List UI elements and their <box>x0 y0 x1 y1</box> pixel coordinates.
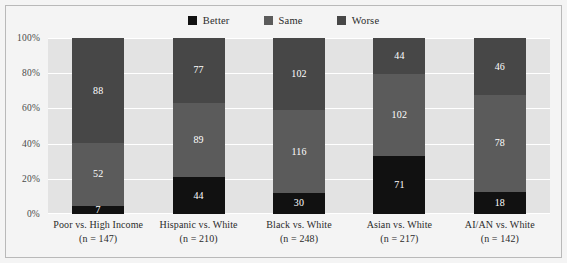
bar-segment-worse[interactable]: 46 <box>474 38 526 95</box>
x-axis-category-label: AI/AN vs. White(n = 142) <box>450 218 550 245</box>
bar-segment-better[interactable]: 7 <box>72 206 124 214</box>
chart-figure: BetterSameWorse 0%20%40%60%80%100% 88527… <box>0 0 567 263</box>
stacked-bar[interactable]: 10211630 <box>273 38 325 214</box>
bar-value-label: 77 <box>193 65 203 75</box>
bar-segment-same[interactable]: 78 <box>474 95 526 192</box>
x-axis-category-count: (n = 147) <box>48 232 148 246</box>
bar-column: 4410271 <box>349 38 449 214</box>
legend-label: Better <box>203 15 230 26</box>
legend-swatch-icon <box>264 16 273 25</box>
bar-value-label: 102 <box>392 110 408 120</box>
y-axis-tick-label: 0% <box>27 209 40 219</box>
x-axis-category-label: Hispanic vs. White(n = 210) <box>148 218 248 245</box>
legend-item-same[interactable]: Same <box>264 15 303 26</box>
y-axis-tick-label: 60% <box>22 103 40 113</box>
bar-value-label: 7 <box>96 206 101 214</box>
stacked-bar[interactable]: 467818 <box>474 38 526 214</box>
bar-segment-better[interactable]: 44 <box>173 177 225 214</box>
legend-item-better[interactable]: Better <box>188 15 230 26</box>
bar-segment-same[interactable]: 52 <box>72 143 124 205</box>
x-axis-category-name: Poor vs. High Income <box>53 219 143 230</box>
bar-segment-same[interactable]: 102 <box>373 74 425 157</box>
x-axis-category-count: (n = 248) <box>249 232 349 246</box>
x-axis-category-count: (n = 142) <box>450 232 550 246</box>
legend-swatch-icon <box>337 16 346 25</box>
x-axis-category-count: (n = 217) <box>349 232 449 246</box>
bar-value-label: 52 <box>93 169 103 179</box>
x-axis-category-name: Asian vs. White <box>367 219 432 230</box>
bar-segment-better[interactable]: 18 <box>474 192 526 214</box>
stacked-bar[interactable]: 778944 <box>173 38 225 214</box>
bar-value-label: 88 <box>93 86 103 96</box>
x-axis: Poor vs. High Income(n = 147)Hispanic vs… <box>48 218 550 245</box>
bar-column: 778944 <box>148 38 248 214</box>
x-axis-category-label: Poor vs. High Income(n = 147) <box>48 218 148 245</box>
x-axis-category-count: (n = 210) <box>148 232 248 246</box>
x-axis-category-label: Black vs. White(n = 248) <box>249 218 349 245</box>
bar-value-label: 102 <box>291 69 307 79</box>
bar-value-label: 89 <box>193 135 203 145</box>
bar-column: 467818 <box>450 38 550 214</box>
plot-area: 88527778944102116304410271467818 <box>48 38 550 214</box>
legend-label: Worse <box>352 15 380 26</box>
legend-label: Same <box>279 15 303 26</box>
bar-segment-worse[interactable]: 44 <box>373 38 425 74</box>
x-axis-category-name: Hispanic vs. White <box>160 219 238 230</box>
bar-series-group: 88527778944102116304410271467818 <box>48 38 550 214</box>
bar-column: 10211630 <box>249 38 349 214</box>
chart-legend: BetterSameWorse <box>0 12 567 28</box>
bar-segment-worse[interactable]: 88 <box>72 38 124 143</box>
legend-swatch-icon <box>188 16 197 25</box>
legend-item-worse[interactable]: Worse <box>337 15 380 26</box>
bar-value-label: 46 <box>495 62 505 72</box>
bar-segment-better[interactable]: 30 <box>273 193 325 214</box>
stacked-bar[interactable]: 88527 <box>72 38 124 214</box>
bar-value-label: 30 <box>294 198 304 208</box>
bar-value-label: 116 <box>291 147 306 157</box>
bar-column: 88527 <box>48 38 148 214</box>
y-axis-tick-label: 80% <box>22 68 40 78</box>
bar-segment-same[interactable]: 89 <box>173 103 225 178</box>
bar-value-label: 18 <box>495 198 505 208</box>
y-axis: 0%20%40%60%80%100% <box>0 38 44 214</box>
bar-value-label: 71 <box>394 180 404 190</box>
bar-segment-worse[interactable]: 77 <box>173 38 225 103</box>
bar-segment-better[interactable]: 71 <box>373 156 425 214</box>
bar-value-label: 78 <box>495 138 505 148</box>
x-axis-category-label: Asian vs. White(n = 217) <box>349 218 449 245</box>
bar-segment-worse[interactable]: 102 <box>273 38 325 110</box>
bar-segment-same[interactable]: 116 <box>273 110 325 192</box>
y-axis-tick-label: 40% <box>22 139 40 149</box>
x-axis-category-name: AI/AN vs. White <box>465 219 535 230</box>
y-axis-tick-label: 20% <box>22 174 40 184</box>
y-axis-tick-label: 100% <box>17 33 40 43</box>
x-axis-category-name: Black vs. White <box>266 219 331 230</box>
bar-value-label: 44 <box>193 191 203 201</box>
bar-value-label: 44 <box>394 51 404 61</box>
stacked-bar[interactable]: 4410271 <box>373 38 425 214</box>
